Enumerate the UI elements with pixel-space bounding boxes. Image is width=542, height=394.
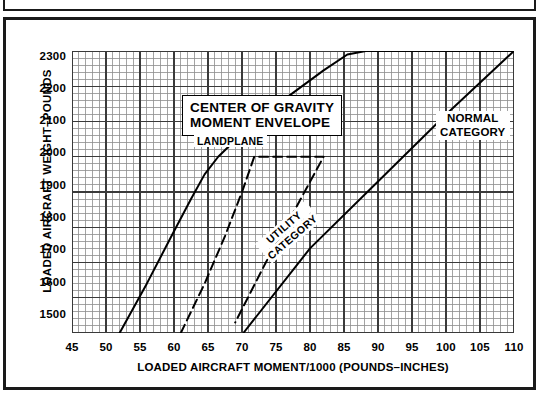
- x-tick-75: 75: [269, 341, 282, 353]
- normal-category-line2: CATEGORY: [440, 126, 506, 140]
- figure-frame: 2300 2200 2100 2000 1900 1800 1700 1600 …: [3, 17, 536, 390]
- chart-title-line1: CENTER OF GRAVITY: [190, 100, 334, 115]
- x-tick-45: 45: [65, 341, 78, 353]
- y-axis-title: LOADED AIRCRAFT WEIGHT–POUNDS: [41, 66, 53, 296]
- envelope-plot-svg: [72, 51, 514, 333]
- normal-category-line1: NORMAL: [440, 112, 506, 126]
- chart-title-line2: MOMENT ENVELOPE: [190, 115, 334, 130]
- x-tick-110: 110: [504, 341, 523, 353]
- x-tick-70: 70: [235, 341, 248, 353]
- x-tick-60: 60: [167, 341, 180, 353]
- landplane-label: LANDPLANE: [194, 135, 267, 147]
- x-axis-title: LOADED AIRCRAFT MOMENT/1000 (POUNDS–INCH…: [72, 361, 514, 373]
- x-tick-90: 90: [371, 341, 384, 353]
- normal-category-label: NORMAL CATEGORY: [436, 111, 510, 140]
- x-tick-80: 80: [303, 341, 316, 353]
- x-tick-95: 95: [405, 341, 418, 353]
- cg-envelope-chart-page: 2300 2200 2100 2000 1900 1800 1700 1600 …: [0, 0, 542, 394]
- chart-title-box: CENTER OF GRAVITY MOMENT ENVELOPE: [182, 95, 342, 136]
- x-tick-55: 55: [133, 341, 146, 353]
- x-tick-50: 50: [99, 341, 112, 353]
- x-tick-100: 100: [436, 341, 456, 353]
- x-tick-85: 85: [337, 341, 350, 353]
- preceding-block-strip: [3, 0, 536, 11]
- y-tick-1500: 1500: [40, 308, 66, 320]
- y-tick-2300: 2300: [40, 50, 66, 62]
- plot-area: CENTER OF GRAVITY MOMENT ENVELOPE LANDPL…: [72, 51, 514, 333]
- series-utility-category: [181, 157, 324, 333]
- y-axis-ticks: 2300 2200 2100 2000 1900 1800 1700 1600 …: [6, 20, 66, 394]
- x-tick-105: 105: [470, 341, 490, 353]
- x-tick-65: 65: [201, 341, 214, 353]
